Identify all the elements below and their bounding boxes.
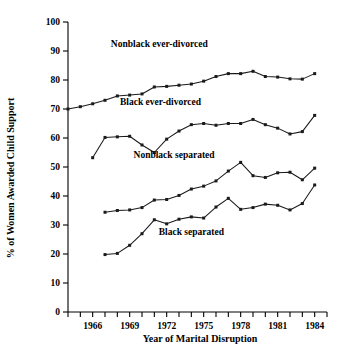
x-axis-tick-label: 1981 — [268, 321, 287, 331]
data-point-marker — [128, 244, 131, 247]
y-axis-tick-label: 70 — [51, 104, 61, 114]
data-point-marker — [239, 208, 242, 211]
line-chart: 0102030405060708090100 19661969197219751… — [0, 0, 357, 354]
series-line — [105, 185, 315, 255]
data-point-marker — [264, 75, 267, 78]
data-point-marker — [276, 127, 279, 130]
x-axis: 1966196919721975197819811984 — [68, 312, 327, 331]
data-point-marker — [264, 176, 267, 179]
y-axis-tick-label: 20 — [51, 249, 61, 259]
data-point-marker — [141, 92, 144, 95]
data-point-marker — [252, 70, 255, 73]
data-point-marker — [128, 135, 131, 138]
series-3 — [104, 183, 317, 256]
chart-container: 0102030405060708090100 19661969197219751… — [0, 0, 357, 354]
data-point-marker — [252, 118, 255, 121]
series-2 — [104, 161, 317, 214]
data-point-marker — [91, 102, 94, 105]
data-point-marker — [178, 84, 181, 87]
data-point-marker — [252, 206, 255, 209]
data-point-marker — [215, 179, 218, 182]
data-point-marker — [239, 72, 242, 75]
series-label-0: Nonblack ever-divorced — [111, 39, 209, 49]
y-axis-tick-label: 0 — [55, 307, 60, 317]
y-axis-tick-label: 60 — [51, 133, 61, 143]
data-point-marker — [227, 197, 230, 200]
data-point-marker — [178, 130, 181, 133]
data-point-marker — [202, 217, 205, 220]
data-point-marker — [104, 253, 107, 256]
data-point-marker — [313, 183, 316, 186]
data-point-marker — [165, 138, 168, 141]
series-line — [105, 162, 315, 212]
data-point-marker — [301, 202, 304, 205]
data-point-marker — [202, 122, 205, 125]
data-point-marker — [252, 174, 255, 177]
data-point-marker — [141, 232, 144, 235]
data-point-marker — [190, 83, 193, 86]
data-point-marker — [227, 72, 230, 75]
data-point-marker — [153, 85, 156, 88]
data-point-marker — [276, 171, 279, 174]
data-point-marker — [190, 188, 193, 191]
data-point-marker — [104, 136, 107, 139]
data-point-marker — [301, 178, 304, 181]
data-point-marker — [178, 194, 181, 197]
data-point-marker — [116, 252, 119, 255]
data-point-marker — [165, 222, 168, 225]
data-point-marker — [116, 135, 119, 138]
data-point-marker — [153, 199, 156, 202]
y-axis-tick-label: 80 — [51, 75, 61, 85]
data-point-marker — [215, 75, 218, 78]
data-point-marker — [202, 80, 205, 83]
series-label-1: Black ever-divorced — [120, 97, 202, 107]
x-axis-tick-label: 1975 — [194, 321, 213, 331]
data-point-marker — [239, 161, 242, 164]
data-point-marker — [141, 143, 144, 146]
x-axis-tick-label: 1966 — [83, 321, 102, 331]
y-axis-tick-label: 100 — [46, 17, 61, 27]
data-point-marker — [104, 99, 107, 102]
data-point-marker — [178, 218, 181, 221]
y-axis: 0102030405060708090100 — [46, 17, 68, 317]
data-point-marker — [289, 171, 292, 174]
data-point-marker — [227, 122, 230, 125]
data-point-marker — [239, 122, 242, 125]
y-axis-tick-label: 90 — [51, 46, 61, 56]
data-point-marker — [165, 85, 168, 88]
data-point-marker — [153, 218, 156, 221]
data-point-marker — [190, 123, 193, 126]
data-point-marker — [116, 94, 119, 97]
data-point-marker — [289, 208, 292, 211]
data-point-marker — [79, 105, 82, 108]
data-point-marker — [215, 206, 218, 209]
series-label-2: Nonblack separated — [134, 150, 216, 160]
data-point-marker — [289, 77, 292, 80]
y-axis-title: % of Women Awarded Child Support — [5, 97, 16, 258]
data-point-marker — [202, 185, 205, 188]
x-axis-tick-label: 1984 — [305, 321, 324, 331]
data-point-marker — [276, 204, 279, 207]
series-label-3: Black separated — [159, 227, 225, 237]
data-point-marker — [91, 156, 94, 159]
y-axis-tick-label: 50 — [51, 162, 61, 172]
x-axis-tick-label: 1969 — [120, 321, 139, 331]
data-point-marker — [313, 167, 316, 170]
data-point-marker — [289, 132, 292, 135]
data-point-marker — [264, 123, 267, 126]
y-axis-tick-label: 30 — [51, 220, 61, 230]
data-point-marker — [190, 215, 193, 218]
data-point-marker — [313, 72, 316, 75]
data-point-marker — [104, 211, 107, 214]
data-point-marker — [215, 124, 218, 127]
data-point-marker — [276, 76, 279, 79]
y-axis-tick-label: 10 — [51, 278, 61, 288]
data-point-marker — [313, 114, 316, 117]
y-axis-tick-label: 40 — [51, 191, 61, 201]
data-point-marker — [227, 170, 230, 173]
data-point-marker — [165, 198, 168, 201]
x-axis-tick-label: 1978 — [231, 321, 250, 331]
data-point-marker — [67, 108, 70, 111]
data-point-marker — [141, 206, 144, 209]
data-point-marker — [301, 78, 304, 81]
